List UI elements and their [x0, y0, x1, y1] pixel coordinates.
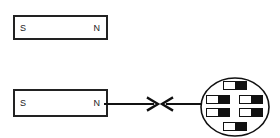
bar-magnet-top: S N [13, 15, 108, 40]
magnet-top-south-label: S [20, 23, 26, 32]
domain-north-pole [218, 109, 229, 116]
domain-south-pole [224, 123, 235, 130]
bar-magnet-bottom: S N [13, 89, 108, 117]
domain-north-pole [235, 82, 246, 89]
domain-south-pole [224, 82, 235, 89]
domain-north-pole [251, 109, 262, 116]
magnet-bottom-south-label: S [20, 99, 26, 108]
domain-south-pole [240, 96, 251, 103]
domain-south-pole [240, 109, 251, 116]
domain-bar [239, 95, 263, 104]
domain-south-pole [207, 96, 218, 103]
magnet-top-north-label: N [94, 23, 101, 32]
domain-bar [206, 95, 230, 104]
magnetized-object [199, 77, 271, 137]
domain-bar [239, 108, 263, 117]
domain-north-pole [235, 123, 246, 130]
domain-bar [223, 122, 247, 131]
domain-north-pole [218, 96, 229, 103]
domain-bar [206, 108, 230, 117]
domain-north-pole [251, 96, 262, 103]
magnet-bottom-north-label: N [94, 99, 101, 108]
domain-south-pole [207, 109, 218, 116]
magnetism-diagram: S N S N [0, 0, 280, 138]
domain-bar [223, 81, 247, 90]
attraction-force-arrows [104, 92, 208, 116]
